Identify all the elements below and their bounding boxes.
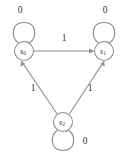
self-loop-s1-label: 0 [103,5,108,15]
self-loop-s0-label: 0 [18,5,23,15]
transition-s0-to-s1-arrowhead [89,49,95,54]
state-node-s2[interactable]: s2 [54,113,73,132]
self-loop-s0-path [13,23,34,43]
self-loop-s2-path [52,130,73,150]
transition-s2-to-s0-line [23,64,57,114]
transition-s2-to-s1-line [70,64,103,114]
fsm-canvas: s0 s1 s2 0 0 0 1 1 1 [0,0,125,157]
transition-s2-to-s0 [21,61,57,114]
transition-s2-to-s0-label: 1 [31,83,36,93]
state-node-s1[interactable]: s1 [95,42,114,61]
state-diagram: s0 s1 s2 0 0 0 1 1 1 [0,0,125,157]
self-loop-s2-label: 0 [83,136,88,146]
transition-s0-to-s1 [34,49,95,54]
self-loop-s1-path [93,23,114,43]
transition-s0-to-s1-label: 1 [62,33,67,43]
transition-s2-to-s1-label: 1 [88,83,93,93]
state-node-s0[interactable]: s0 [15,42,34,61]
